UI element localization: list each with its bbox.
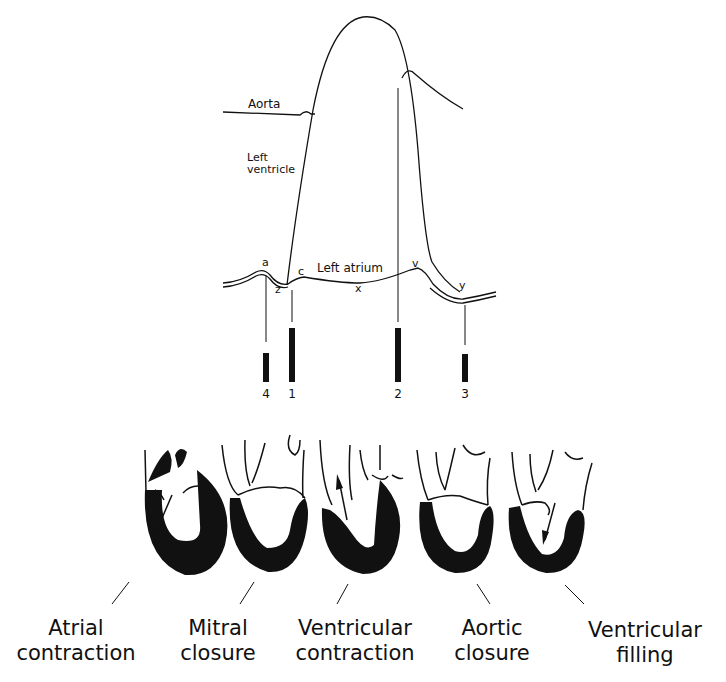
caption-line1: Ventricular xyxy=(588,618,702,643)
heart-ventricular-filling xyxy=(509,450,592,573)
aorta-label: Aorta xyxy=(248,98,280,111)
heart-atrial-contraction xyxy=(145,449,228,575)
aorta-curve xyxy=(223,112,315,115)
caption-line2: contraction xyxy=(16,641,135,666)
caption-line1: Aortic xyxy=(454,616,530,641)
marker-number-3: 3 xyxy=(461,387,469,401)
wave-point-v: v xyxy=(412,258,419,270)
caption-line1: Atrial xyxy=(16,616,135,641)
wave-point-x: x xyxy=(355,283,362,295)
left-atrium-label: Left atrium xyxy=(317,262,383,275)
cardiac-cycle-diagram xyxy=(0,0,726,682)
caption-line1: Mitral xyxy=(180,616,256,641)
caption-leaders xyxy=(112,582,584,604)
heart-ventricular-contraction xyxy=(320,440,403,574)
marker-bars xyxy=(263,328,468,382)
wave-point-z: z xyxy=(275,284,281,296)
caption-ventricular-filling: Ventricular filling xyxy=(588,618,702,668)
caption-mitral-closure: Mitral closure xyxy=(180,616,256,666)
caption-atrial-contraction: Atrial contraction xyxy=(16,616,135,666)
marker-number-1: 1 xyxy=(288,387,296,401)
caption-ventricular-contraction: Ventricular contraction xyxy=(295,616,414,666)
marker-number-4: 4 xyxy=(262,387,270,401)
wave-point-c: c xyxy=(298,266,304,278)
caption-line2: closure xyxy=(454,641,530,666)
left-ventricle-curve xyxy=(287,17,460,292)
marker-number-2: 2 xyxy=(394,387,402,401)
wave-point-a: a xyxy=(262,257,269,269)
caption-line2: filling xyxy=(588,643,702,668)
left-ventricle-label-line2: ventricle xyxy=(247,164,295,176)
caption-line2: contraction xyxy=(295,641,414,666)
heart-mitral-closure xyxy=(222,435,308,572)
wave-point-y: y xyxy=(459,280,466,292)
heart-aortic-closure xyxy=(417,445,494,573)
caption-line2: closure xyxy=(180,641,256,666)
caption-aortic-closure: Aortic closure xyxy=(454,616,530,666)
caption-line1: Ventricular xyxy=(295,616,414,641)
